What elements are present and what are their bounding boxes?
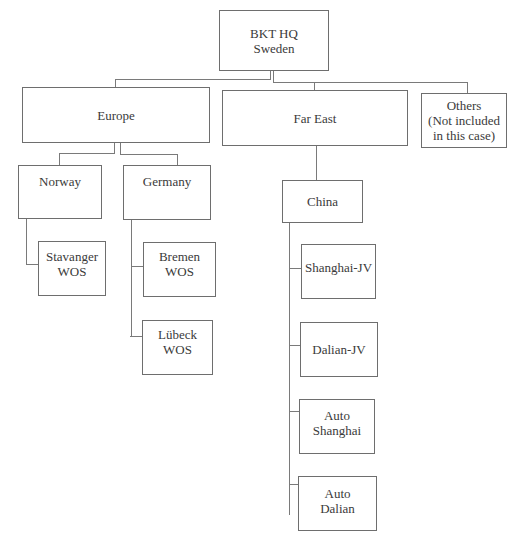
connector-europe-left	[114, 142, 115, 153]
connector-europe-germany-v	[177, 154, 178, 165]
node-label: BKT HQ Sweden	[250, 26, 298, 56]
connector-hq-right-h	[273, 82, 468, 83]
node-label: Lübeck WOS	[158, 327, 197, 357]
connector-hq-others-v	[467, 82, 468, 93]
connector-china-v	[289, 222, 290, 515]
node-label: Shanghai-JV	[305, 260, 372, 275]
node-label: Auto Dalian	[320, 486, 355, 516]
node-far-east: Far East	[222, 90, 408, 146]
connector-europe-norway-h	[59, 153, 115, 154]
node-label: Germany	[143, 174, 191, 189]
connector-europe-germany-h	[120, 154, 177, 155]
node-bremen-wos: Bremen WOS	[143, 242, 216, 297]
node-norway: Norway	[18, 165, 102, 219]
node-label: Norway	[39, 174, 81, 189]
connector-germany-v	[131, 219, 132, 337]
node-auto-dalian: Auto Dalian	[298, 476, 377, 531]
node-label: Auto Shanghai	[313, 408, 361, 438]
node-lubeck-wos: Lübeck WOS	[142, 320, 213, 375]
node-label: Europe	[97, 108, 135, 123]
node-others: Others (Not included in this case)	[421, 93, 507, 148]
connector-hq-fareast-v	[314, 82, 315, 90]
node-label: Dalian-JV	[312, 342, 365, 357]
node-stavanger-wos: Stavanger WOS	[38, 241, 106, 296]
node-bkt-hq: BKT HQ Sweden	[219, 10, 329, 71]
node-label: China	[307, 194, 338, 209]
connector-fareast-china	[316, 145, 317, 180]
connector-hq-europe-h	[115, 79, 271, 80]
node-shanghai-jv: Shanghai-JV	[301, 244, 376, 299]
connector-norway-stavanger-v	[26, 218, 27, 265]
node-europe: Europe	[22, 87, 210, 143]
node-label: Others (Not included in this case)	[428, 98, 500, 143]
node-label: Far East	[294, 111, 337, 126]
connector-europe-right	[120, 142, 121, 154]
node-auto-shanghai: Auto Shanghai	[299, 399, 375, 454]
node-label: Bremen WOS	[159, 249, 200, 279]
node-germany: Germany	[123, 165, 211, 220]
connector-europe-norway-v	[59, 153, 60, 165]
node-label: Stavanger WOS	[46, 249, 98, 279]
node-china: China	[282, 180, 363, 223]
node-dalian-jv: Dalian-JV	[300, 322, 378, 377]
